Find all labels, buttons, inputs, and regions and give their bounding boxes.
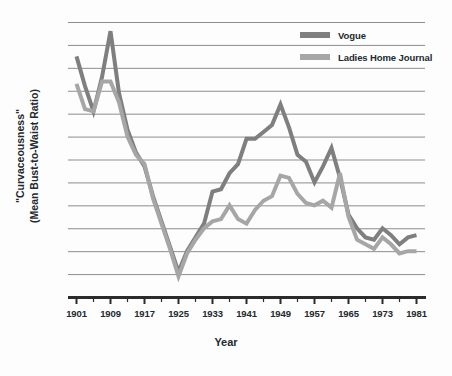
x-axis-tick-label: 1933 <box>196 308 230 319</box>
x-axis-tick-label: 1957 <box>298 308 332 319</box>
y-axis-title-line2: (Mean Bust-to-Waist Ratio) <box>27 46 41 266</box>
x-axis-tick-label: 1909 <box>94 308 128 319</box>
y-axis-title: "Curvaceousness" (Mean Bust-to-Waist Rat… <box>13 46 41 266</box>
legend-item-vogue: Vogue <box>300 24 440 46</box>
x-axis-tick-label: 1925 <box>162 308 196 319</box>
chart-figure: 1901190919171925193319411949195719651973… <box>0 0 452 376</box>
legend-item-ladies-home-journal: Ladies Home Journal <box>300 46 440 68</box>
x-axis-title: Year <box>0 336 452 348</box>
legend-swatch-icon <box>300 32 330 38</box>
x-axis-tick-label: 1973 <box>366 308 400 319</box>
x-axis-tick-label: 1965 <box>332 308 366 319</box>
y-axis-title-line1: "Curvaceousness" <box>13 46 27 266</box>
x-axis-tick-label: 1941 <box>230 308 264 319</box>
x-axis-tick-label: 1901 <box>60 308 94 319</box>
legend-label: Vogue <box>338 30 366 41</box>
x-axis-tick-label: 1917 <box>128 308 162 319</box>
legend-label: Ladies Home Journal <box>338 52 432 63</box>
series-line-ladies-home-journal <box>77 82 417 277</box>
x-axis-ticks <box>68 297 426 307</box>
legend-swatch-icon <box>300 54 330 60</box>
x-axis-tick-label: 1981 <box>400 308 434 319</box>
legend: Vogue Ladies Home Journal <box>300 24 440 68</box>
x-axis-tick-label: 1949 <box>264 308 298 319</box>
